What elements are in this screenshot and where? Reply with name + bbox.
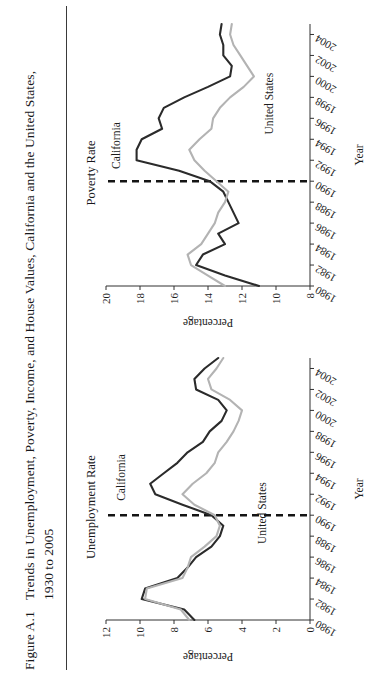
x-tick-label: 1980 (313, 284, 338, 306)
x-tick-label: 2000 (313, 74, 338, 96)
series-label-united-states: United States (256, 482, 268, 544)
chart-title-poverty: Poverty Rate (84, 14, 99, 332)
y-tick-label: 12 (236, 293, 248, 304)
x-tick-label: 1998 (313, 429, 338, 451)
x-tick-label: 1980 (313, 618, 338, 640)
y-tick-label: 20 (100, 293, 112, 305)
y-tick-label: 10 (270, 293, 282, 305)
x-tick-label: 1984 (313, 242, 338, 264)
x-tick-label: 2000 (313, 408, 338, 430)
poverty-rate-plot: 8101214161820198019821984198619881990199… (98, 14, 366, 332)
series-label-california: California (110, 122, 122, 169)
figure-page: Figure A.1Trends in Unemployment, Povert… (0, 0, 381, 680)
x-tick-label: 1996 (313, 116, 338, 138)
series-label-united-states: United States (263, 72, 275, 134)
x-axis-title: Year (353, 144, 365, 165)
x-tick-label: 1998 (313, 95, 338, 117)
chart-panel-poverty: Poverty Rate 810121416182019801982198419… (84, 14, 369, 332)
x-tick-label: 1990 (313, 179, 338, 201)
x-tick-label: 1986 (313, 555, 338, 577)
x-tick-label: 2002 (313, 388, 338, 409)
x-tick-label: 2004 (313, 32, 338, 54)
x-tick-label: 1992 (313, 159, 338, 180)
y-tick-label: 12 (100, 627, 112, 638)
y-axis-title: Percentage (183, 650, 233, 663)
y-tick-label: 10 (134, 627, 146, 639)
series-line-united-states (145, 358, 242, 620)
x-tick-label: 1988 (313, 200, 338, 222)
x-tick-label: 1996 (313, 450, 338, 472)
caption-divider (66, 6, 67, 670)
y-tick-label: 18 (134, 293, 146, 305)
figure-caption: Figure A.1Trends in Unemployment, Povert… (20, 10, 39, 670)
y-tick-label: 4 (236, 627, 248, 633)
x-tick-label: 1992 (313, 493, 338, 514)
x-tick-label: 1994 (313, 471, 338, 493)
y-tick-label: 16 (168, 293, 180, 305)
rotated-page-wrapper: Figure A.1Trends in Unemployment, Povert… (0, 0, 381, 680)
y-tick-label: 6 (202, 627, 214, 633)
figure-caption-line1: Trends in Unemployment, Poverty, Income,… (20, 71, 39, 600)
x-axis-title: Year (353, 478, 365, 499)
x-tick-label: 1988 (313, 534, 338, 556)
chart-panel-unemployment: Unemployment Rate 0246810121980198219841… (84, 348, 369, 666)
series-label-california: California (115, 454, 127, 501)
x-tick-label: 1982 (313, 597, 338, 618)
series-line-california (142, 358, 227, 620)
figure-caption-line2: 1930 to 2005 (39, 529, 58, 600)
x-tick-label: 1982 (313, 263, 338, 284)
y-tick-label: 2 (270, 627, 282, 633)
x-tick-label: 1990 (313, 513, 338, 535)
x-tick-label: 1984 (313, 576, 338, 598)
x-tick-label: 1994 (313, 137, 338, 159)
chart-title-unemployment: Unemployment Rate (84, 348, 99, 666)
figure-number: Figure A.1 (20, 600, 39, 670)
unemployment-rate-plot: 0246810121980198219841986198819901992199… (98, 348, 366, 666)
y-tick-label: 8 (168, 627, 180, 633)
y-tick-label: 14 (202, 293, 214, 305)
x-tick-label: 2004 (313, 366, 338, 388)
x-tick-label: 2002 (313, 54, 338, 75)
x-tick-label: 1986 (313, 221, 338, 243)
y-axis-title: Percentage (183, 316, 233, 329)
